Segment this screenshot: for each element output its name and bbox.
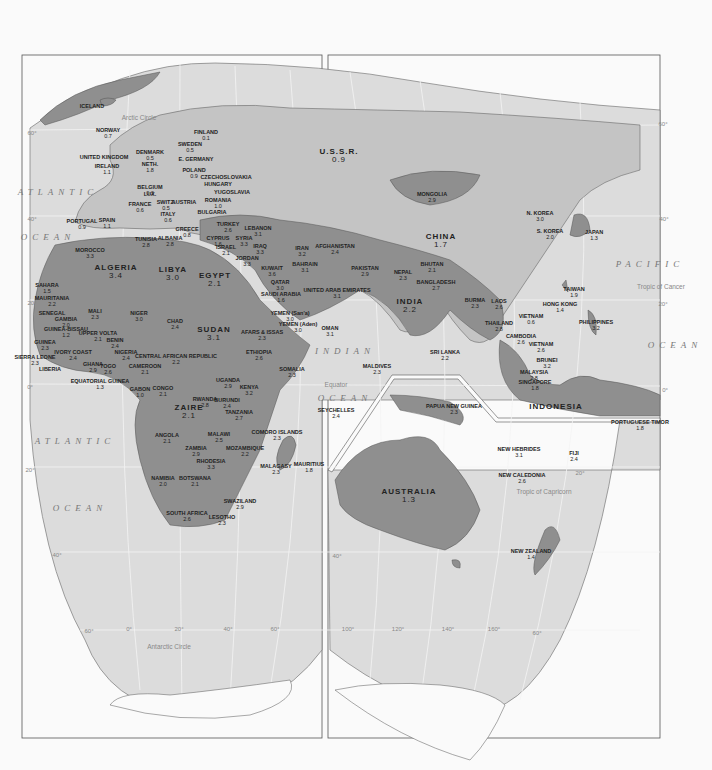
country-label: SYRIA3.3: [236, 236, 253, 247]
country-label: ZAIRE2.1: [175, 404, 204, 420]
country-label: BURMA2.3: [465, 298, 485, 309]
country-value: 2.3: [465, 304, 485, 310]
graticule-label: 20°: [575, 470, 584, 476]
country-value: 3.0: [527, 217, 554, 223]
country-label: SPAIN1.1: [99, 218, 115, 229]
graticule-label: 20°: [25, 467, 34, 473]
country-value: 1.3: [381, 496, 436, 504]
country-value: 1.5: [35, 289, 59, 295]
country-label: CHAD2.4: [167, 319, 183, 330]
country-label: SRI LANKA2.2: [430, 350, 460, 361]
country-label: BRUNEI3.2: [536, 358, 557, 369]
country-value: 2.8: [485, 327, 513, 333]
country-value: 1.3: [585, 236, 603, 242]
country-label: LIBYA3.0: [159, 266, 187, 282]
country-value: 3.6: [261, 272, 283, 278]
country-label: ROMANIA1.0: [205, 198, 231, 209]
country-label: TOGO2.6: [100, 364, 116, 375]
country-label: PHILIPPINES3.2: [579, 320, 613, 331]
country-label: AFGHANISTAN2.4: [315, 244, 355, 255]
country-value: 1.8: [518, 386, 551, 392]
country-value: 2.4: [115, 356, 138, 362]
country-label: YEMEN (Aden)3.0: [279, 322, 318, 333]
country-value: 2.3: [279, 373, 304, 379]
graticule-label: 100°: [342, 626, 354, 632]
graticule-label: 60°: [658, 121, 667, 127]
ocean-label: OCEAN: [53, 503, 108, 513]
country-name: UNITED KINGDOM: [80, 154, 129, 160]
country-label: NETH.1.8: [142, 162, 159, 173]
country-label: NAMIBIA2.0: [151, 476, 175, 487]
country-label: CAMEROON2.1: [129, 364, 162, 375]
country-label: YUGOSLAVIA: [214, 190, 250, 196]
country-value: 3.3: [196, 465, 225, 471]
country-value: 2.9: [417, 198, 447, 204]
country-value: 2.3: [241, 336, 283, 342]
country-label: TUNISIA2.8: [135, 237, 157, 248]
country-value: 0.6: [161, 218, 176, 224]
country-label: EQUATORIAL GUINEA1.3: [71, 379, 130, 390]
country-name: LIBERIA: [39, 366, 61, 372]
country-label: SOMALIA2.3: [279, 367, 304, 378]
country-value: 2.2: [430, 356, 460, 362]
country-label: NEPAL2.3: [394, 270, 412, 281]
country-label: INDIA2.2: [397, 298, 424, 314]
country-label: TANZANIA2.7: [225, 410, 253, 421]
country-value: 2.3: [363, 370, 391, 376]
country-label: MAURITIUS1.8: [294, 462, 325, 473]
country-name: INDONESIA: [529, 402, 582, 411]
country-value: 2.4: [315, 250, 355, 256]
country-value: 2.7: [417, 286, 456, 292]
country-value: 2.9: [216, 384, 240, 390]
country-name: HUNGARY: [204, 181, 232, 187]
country-name: LUX.: [144, 191, 157, 197]
country-value: 2.1: [179, 482, 211, 488]
country-value: 2.3: [34, 346, 55, 352]
country-value: 3.1: [498, 453, 541, 459]
country-label: MALAGASY2.3: [260, 464, 291, 475]
country-label: ISRAEL2.1: [216, 245, 236, 256]
country-value: 2.6: [246, 356, 272, 362]
country-label: CZECHOSLOVAKIA: [200, 175, 251, 181]
country-label: HUNGARY: [204, 182, 232, 188]
country-label: FINLAND0.1: [194, 130, 218, 141]
country-label: THAILAND2.8: [485, 321, 513, 332]
country-label: MONGOLIA2.9: [417, 192, 447, 203]
country-label: UNITED ARAB EMIRATES3.1: [303, 288, 370, 299]
country-label: SINGAPORE1.8: [518, 380, 551, 391]
graticule-label: 60°: [84, 628, 93, 634]
graticule-label: 140°: [442, 626, 454, 632]
country-value: 3.2: [295, 252, 308, 258]
ocean-label: OCEAN: [648, 340, 703, 350]
country-name: BULGARIA: [197, 209, 226, 215]
country-value: 3.0: [130, 317, 147, 323]
ocean-label: INDIAN: [315, 346, 375, 356]
country-value: 0.9: [319, 156, 358, 164]
country-value: 2.1: [421, 268, 444, 274]
country-value: 0.6: [129, 208, 152, 214]
country-value: 0.7: [96, 134, 120, 140]
country-value: 2.1: [175, 412, 204, 420]
country-label: KENYA3.2: [240, 385, 259, 396]
country-value: 3.1: [322, 332, 339, 338]
country-label: ALBANIA2.8: [158, 236, 183, 247]
country-label: JAPAN1.3: [585, 230, 603, 241]
country-value: 3.3: [235, 262, 258, 268]
country-value: 2.9: [224, 505, 257, 511]
country-label: MALI2.3: [88, 309, 101, 320]
country-value: 3.1: [292, 268, 317, 274]
country-label: ANGOLA2.1: [155, 433, 179, 444]
ocean-label: OCEAN: [318, 393, 373, 403]
graticule-label: 120°: [392, 626, 404, 632]
reference-line-label: Arctic Circle: [122, 114, 157, 121]
country-label: CHINA1.7: [426, 233, 456, 249]
country-label: ALGERIA3.4: [95, 264, 138, 280]
country-value: 1.1: [99, 224, 115, 230]
country-value: 2.2: [397, 306, 424, 314]
graticule-label: 40°: [332, 553, 341, 559]
country-label: BURUNDI2.4: [214, 398, 239, 409]
country-label: SWAZILAND2.9: [224, 499, 257, 510]
country-label: MOZAMBIQUE2.2: [226, 446, 264, 457]
country-label: AUSTRIA: [172, 200, 196, 206]
country-value: 0.6: [519, 320, 544, 326]
